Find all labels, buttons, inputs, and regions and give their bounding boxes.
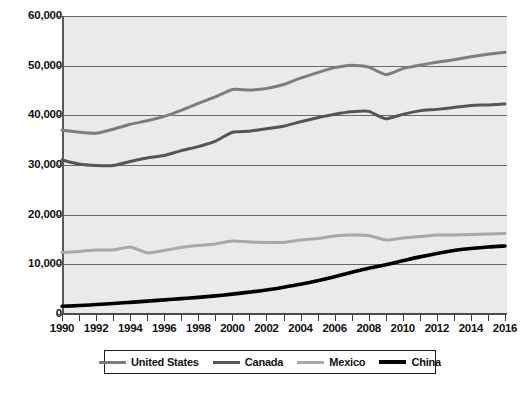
x-axis-tick [147, 315, 148, 321]
legend-item-label: Canada [245, 356, 284, 368]
legend-item-label: United States [131, 356, 199, 368]
x-axis-tick [454, 315, 455, 321]
legend-swatch-icon [99, 361, 126, 364]
x-axis-tick [301, 315, 302, 321]
legend-item-mexico[interactable]: Mexico [290, 356, 372, 368]
x-axis-tick [130, 315, 131, 321]
x-axis-tick-label: 2000 [220, 322, 244, 334]
x-axis-tick [352, 315, 353, 321]
x-axis-tick [79, 315, 80, 321]
legend-swatch-icon [213, 361, 240, 364]
x-axis-tick [181, 315, 182, 321]
x-axis-tick-label: 2014 [459, 322, 483, 334]
x-axis-tick [420, 315, 421, 321]
series-line-canada [62, 104, 505, 166]
x-axis-tick [488, 315, 489, 321]
data-series-group [62, 16, 505, 314]
x-axis-tick [386, 315, 387, 321]
x-axis-tick [62, 315, 63, 321]
x-axis-tick-label: 2004 [288, 322, 312, 334]
x-axis-tick [266, 315, 267, 321]
series-line-united-states [62, 52, 505, 133]
x-axis-tick-label: 1990 [50, 322, 74, 334]
x-axis-tick-label: 1998 [186, 322, 210, 334]
x-axis-tick [113, 315, 114, 321]
x-axis-tick [335, 315, 336, 321]
legend-item-label: China [411, 356, 441, 368]
x-axis-tick [505, 315, 506, 321]
legend-swatch-icon [297, 361, 324, 364]
legend-item-united-states[interactable]: United States [92, 356, 206, 368]
x-axis-tick-label: 1992 [84, 322, 108, 334]
x-axis-tick-label: 2010 [391, 322, 415, 334]
legend-swatch-icon [379, 360, 406, 364]
chart-legend: United StatesCanadaMexicoChina [104, 350, 436, 374]
x-axis-tick-label: 1994 [118, 322, 142, 334]
legend-item-canada[interactable]: Canada [206, 356, 291, 368]
x-axis-tick [249, 315, 250, 321]
x-axis-tick [198, 315, 199, 321]
x-axis-tick-label: 2008 [356, 322, 380, 334]
x-axis-tick-label: 2012 [425, 322, 449, 334]
x-axis-tick-label: 1996 [152, 322, 176, 334]
x-axis-tick [215, 315, 216, 321]
x-axis-tick [232, 315, 233, 321]
x-axis-tick-label: 2016 [493, 322, 517, 334]
legend-item-label: Mexico [329, 356, 365, 368]
series-line-mexico [62, 234, 505, 253]
x-axis-tick [164, 315, 165, 321]
line-chart: 010,00020,00030,00040,00050,00060,000 19… [0, 0, 521, 394]
x-axis-tick [284, 315, 285, 321]
x-axis-tick [369, 315, 370, 321]
x-axis-tick-label: 2002 [254, 322, 278, 334]
x-axis-tick-label: 2006 [322, 322, 346, 334]
series-line-china [62, 246, 505, 306]
legend-item-china[interactable]: China [372, 356, 448, 368]
x-axis-tick [403, 315, 404, 321]
x-axis-tick [318, 315, 319, 321]
x-axis-tick [437, 315, 438, 321]
x-axis-tick [96, 315, 97, 321]
x-axis-tick [471, 315, 472, 321]
